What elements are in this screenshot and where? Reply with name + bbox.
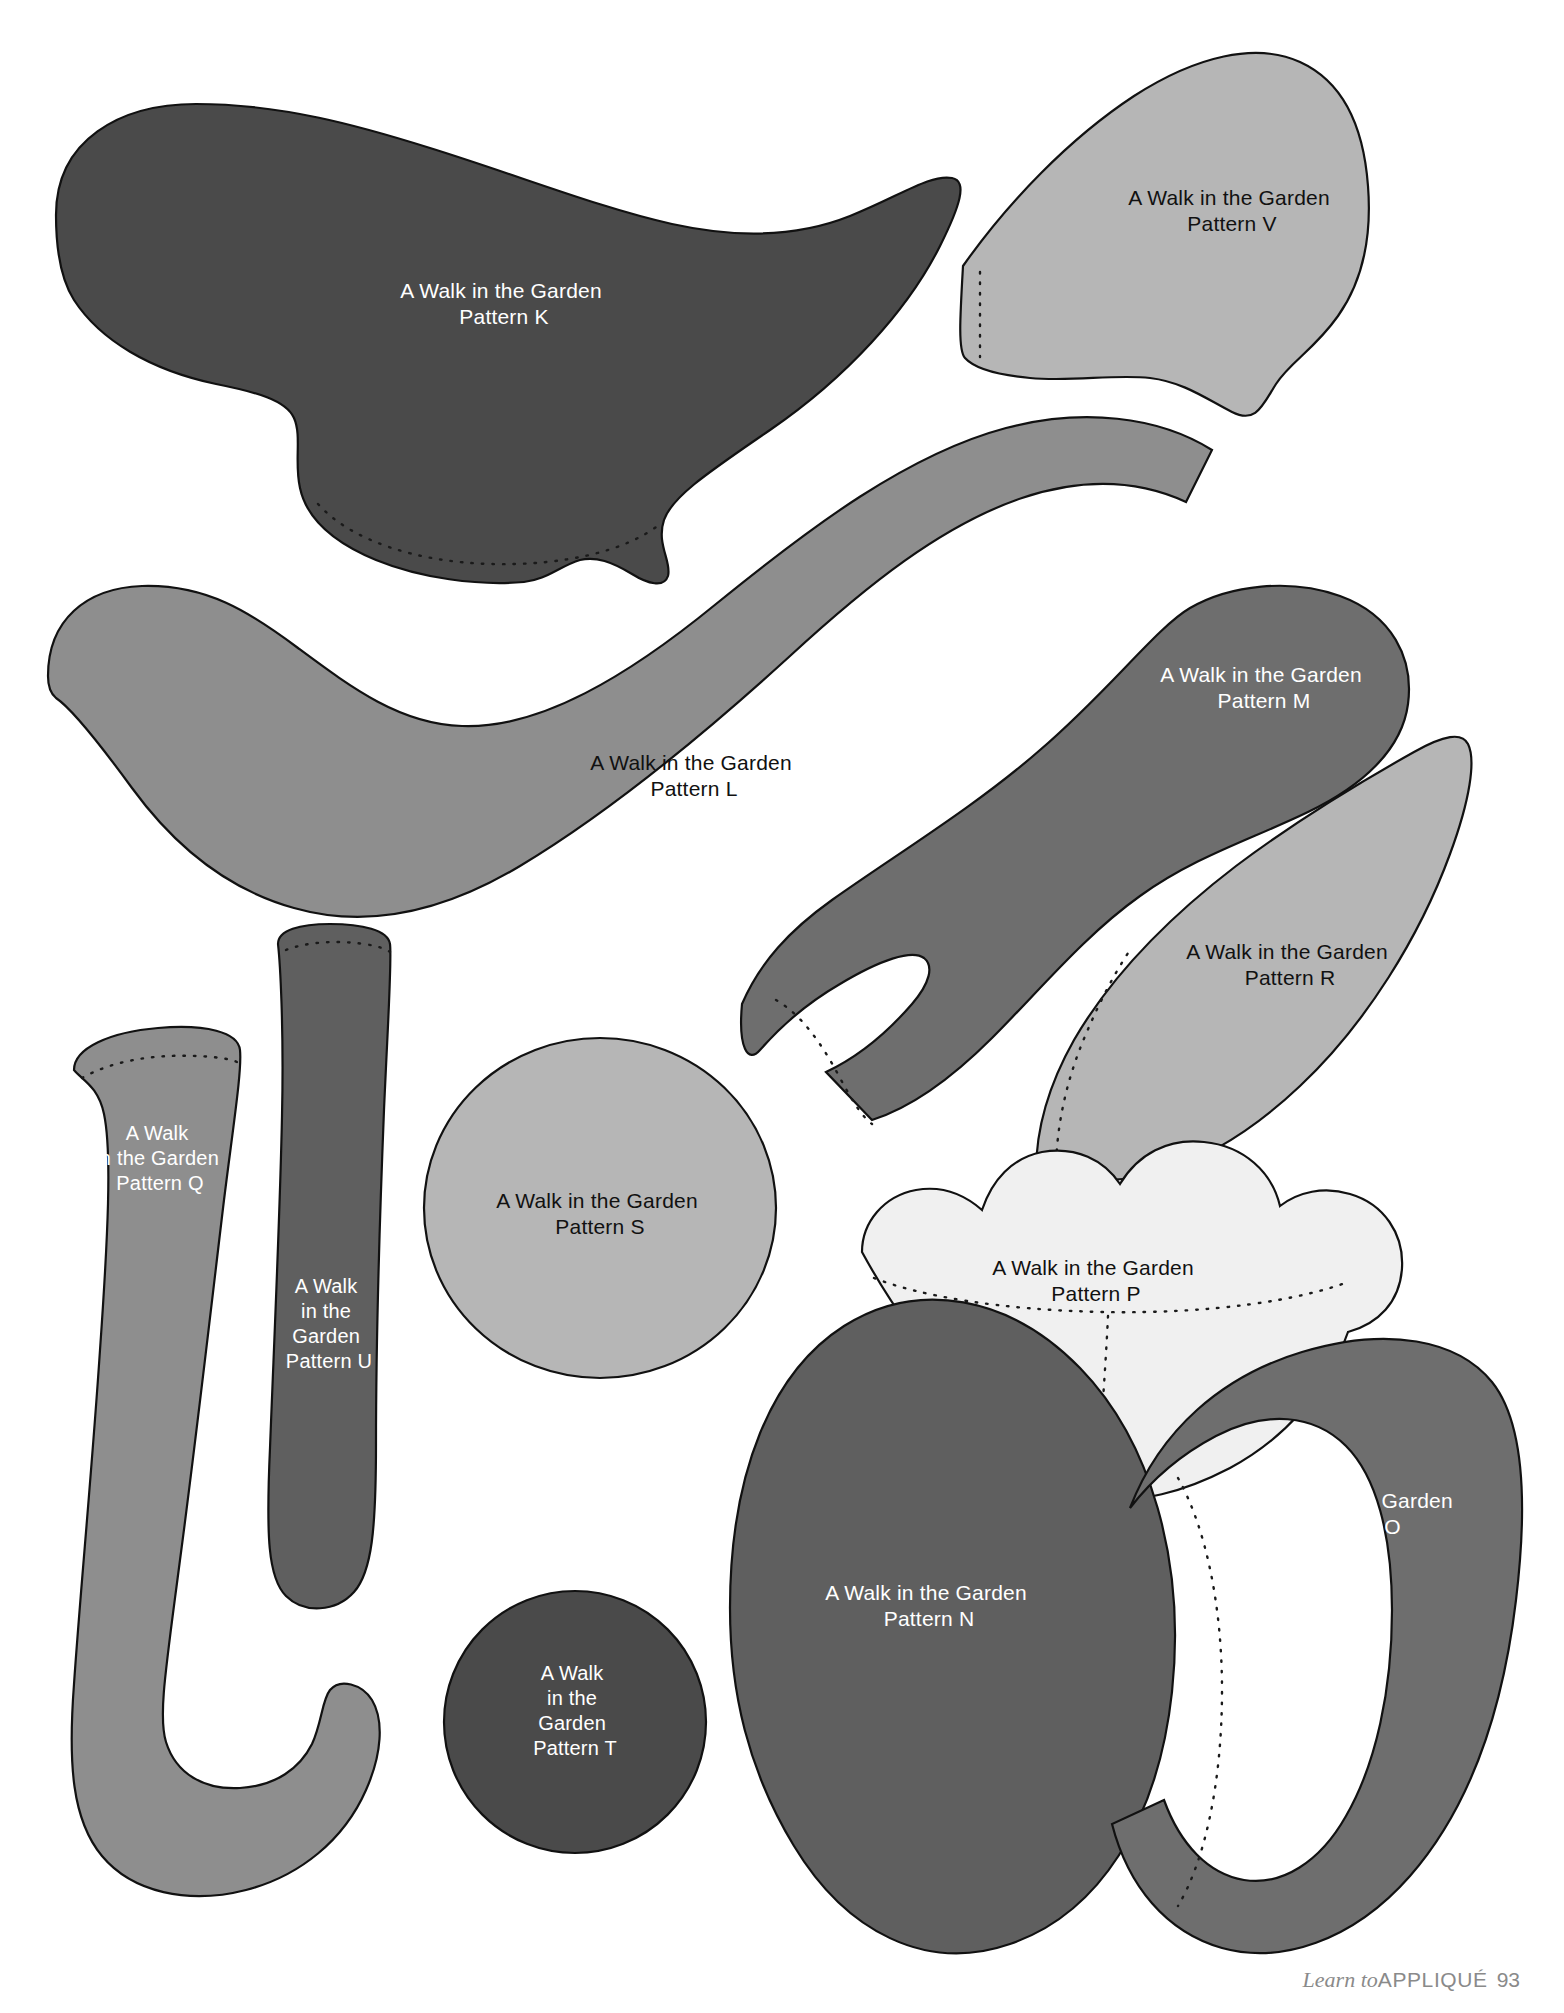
label-line: A Walk bbox=[295, 1275, 358, 1297]
label-line: Pattern V bbox=[1187, 212, 1276, 235]
label-line: Pattern N bbox=[884, 1607, 975, 1630]
label-line: A Walk in the Garden bbox=[1128, 186, 1330, 209]
label-line: Pattern M bbox=[1218, 689, 1311, 712]
pattern-piece-k-group[interactable]: A Walk in the Garden Pattern K bbox=[56, 104, 961, 583]
label-line: Pattern K bbox=[459, 305, 548, 328]
pattern-page: A Walk in the Garden Pattern K A Walk in… bbox=[0, 0, 1564, 2013]
pattern-piece-v-group[interactable]: A Walk in the Garden Pattern V bbox=[960, 53, 1369, 416]
label-line: A Walk in the Garden bbox=[496, 1189, 698, 1212]
pattern-piece-v-shape[interactable] bbox=[960, 53, 1369, 416]
label-line: Pattern Q bbox=[116, 1172, 203, 1194]
page-number: 93 bbox=[1497, 1968, 1520, 1991]
label-line: Pattern O bbox=[1309, 1515, 1401, 1538]
book-title-italic: Learn to bbox=[1303, 1967, 1378, 1992]
label-line: A Walk in the Garden bbox=[1186, 940, 1388, 963]
page-footer: Learn toAPPLIQUÉ93 bbox=[1303, 1969, 1520, 1991]
pattern-piece-k-shape[interactable] bbox=[56, 104, 961, 583]
label-line: Garden bbox=[538, 1712, 606, 1734]
pattern-piece-t-group[interactable]: A Walk in the Garden Pattern T bbox=[444, 1591, 706, 1853]
label-line: Garden bbox=[292, 1325, 360, 1347]
label-line: Pattern S bbox=[555, 1215, 644, 1238]
label-line: Pattern P bbox=[1051, 1282, 1140, 1305]
label-line: A Walk in the Garden bbox=[992, 1256, 1194, 1279]
label-line: in the bbox=[547, 1687, 597, 1709]
label-line: A Walk in the Garden bbox=[825, 1581, 1027, 1604]
pattern-piece-u-group[interactable]: A Walk in the Garden Pattern U bbox=[268, 924, 390, 1608]
pattern-sheet-illustration: A Walk in the Garden Pattern K A Walk in… bbox=[0, 0, 1564, 2013]
label-line: A Walk in the Garden bbox=[1251, 1489, 1453, 1512]
label-line: Pattern U bbox=[286, 1350, 372, 1372]
pattern-piece-s-group[interactable]: A Walk in the Garden Pattern S bbox=[424, 1038, 776, 1378]
book-title-caps: APPLIQUÉ bbox=[1378, 1968, 1488, 1991]
label-line: A Walk in the Garden bbox=[400, 279, 602, 302]
label-line: Pattern L bbox=[650, 777, 737, 800]
label-line: in the bbox=[301, 1300, 351, 1322]
label-line: Pattern R bbox=[1245, 966, 1336, 989]
label-line: A Walk bbox=[126, 1122, 189, 1144]
label-line: A Walk in the Garden bbox=[590, 751, 792, 774]
label-line: A Walk bbox=[541, 1662, 604, 1684]
label-line: A Walk in the Garden bbox=[1160, 663, 1362, 686]
label-line: in the Garden bbox=[95, 1147, 219, 1169]
pattern-piece-u-shape[interactable] bbox=[268, 924, 390, 1608]
label-line: Pattern T bbox=[533, 1737, 617, 1759]
